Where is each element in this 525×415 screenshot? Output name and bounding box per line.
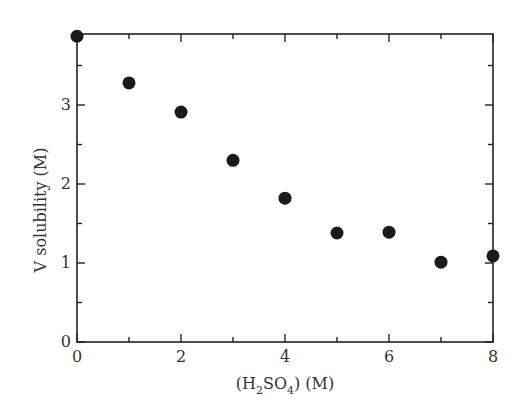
x-axis-label: (H2SO4) (M) [236, 374, 334, 397]
y-tick-label: 3 [61, 95, 71, 114]
tick-labels: 024680123 [61, 95, 498, 366]
data-point [435, 256, 448, 269]
data-point [383, 226, 396, 239]
plot-frame [77, 34, 493, 342]
data-point [279, 192, 292, 205]
data-point [71, 30, 84, 43]
y-tick-label: 2 [61, 174, 71, 193]
plot-border [77, 34, 493, 342]
data-point [175, 106, 188, 119]
y-axis-label: V solubility (M) [31, 148, 50, 274]
data-point [331, 226, 344, 239]
scatter-chart: 024680123 (H2SO4) (M) V solubility (M) [0, 0, 525, 415]
x-tick-label: 8 [488, 347, 498, 366]
x-tick-label: 2 [176, 347, 186, 366]
x-tick-label: 4 [280, 347, 290, 366]
data-point [123, 76, 136, 89]
data-point [227, 154, 240, 167]
data-point [487, 249, 500, 262]
x-tick-label: 6 [384, 347, 394, 366]
x-tick-label: 0 [72, 347, 82, 366]
data-points [71, 30, 500, 269]
axis-ticks [77, 34, 493, 342]
y-tick-label: 0 [61, 332, 71, 351]
y-tick-label: 1 [61, 253, 71, 272]
